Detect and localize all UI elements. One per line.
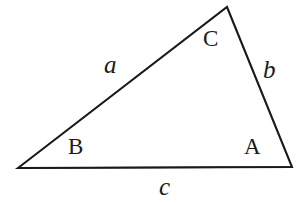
- side-label-b: b: [263, 57, 276, 82]
- vertex-label-A: A: [244, 135, 261, 158]
- side-label-a: a: [104, 52, 117, 77]
- triangle-side-c-line: [18, 167, 292, 168]
- triangle-figure: C B A a b c: [0, 0, 300, 203]
- vertex-label-C: C: [203, 27, 218, 50]
- side-label-c: c: [159, 174, 170, 199]
- vertex-label-B: B: [68, 135, 83, 158]
- triangle-outline-svg: [0, 0, 300, 203]
